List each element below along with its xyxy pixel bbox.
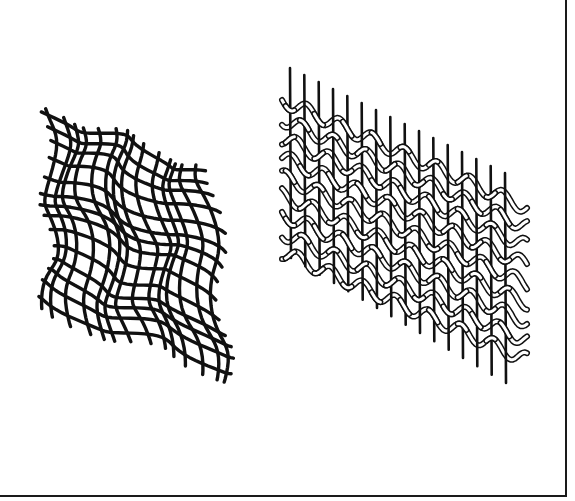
right-rod-weave-drawing bbox=[282, 68, 527, 383]
left-wavy-mesh-drawing bbox=[39, 109, 234, 382]
woven-mesh-illustration bbox=[0, 0, 575, 501]
